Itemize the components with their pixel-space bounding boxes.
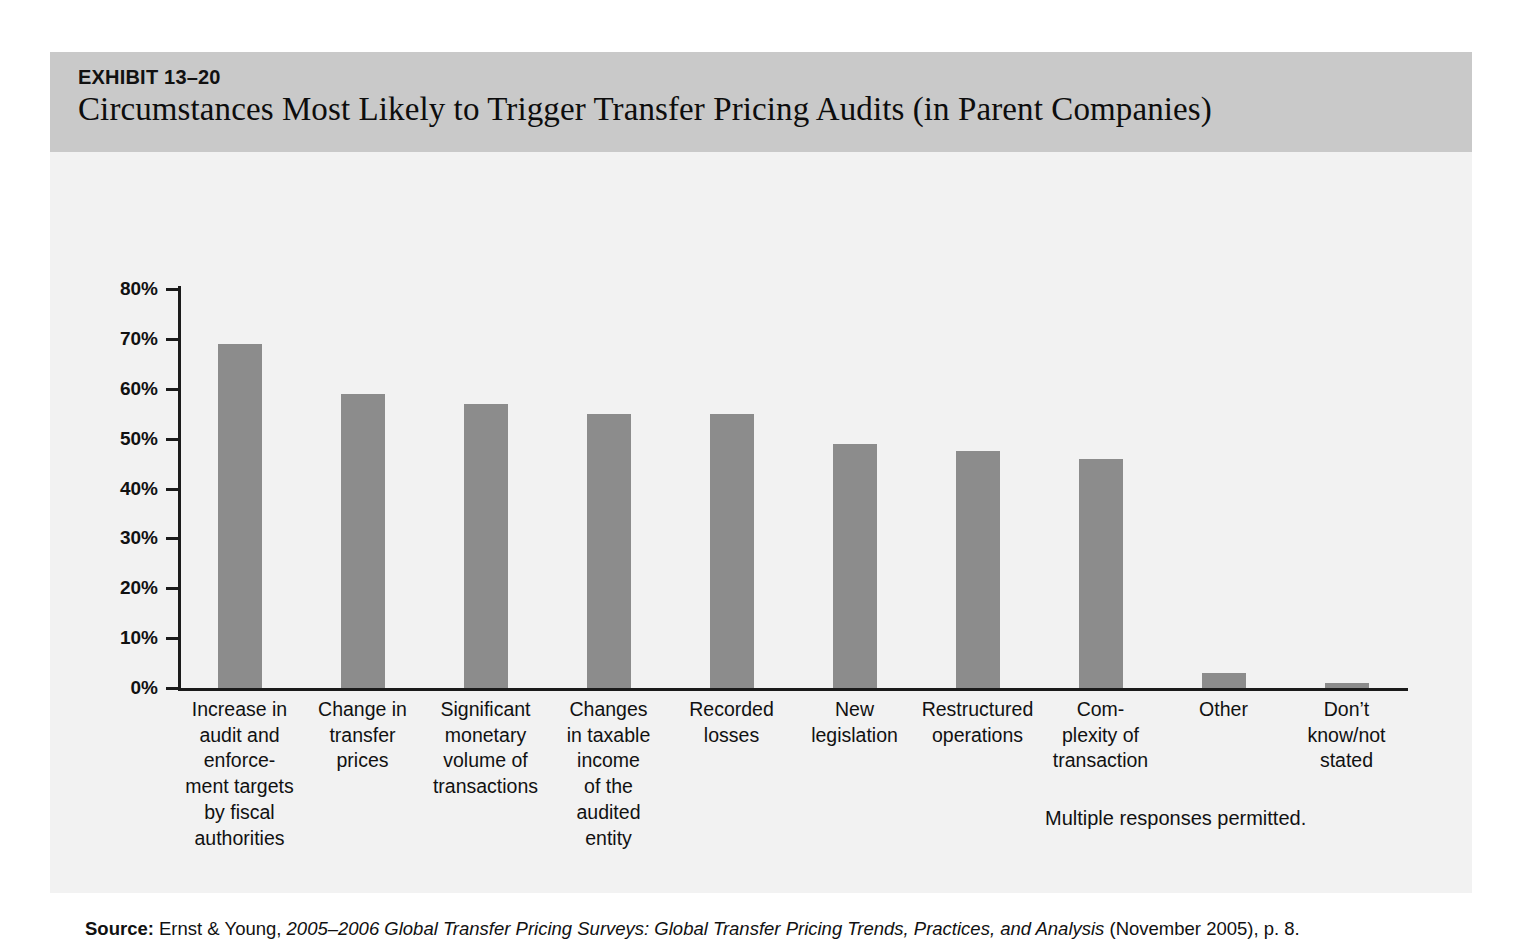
x-axis-label: Other [1158, 697, 1289, 723]
y-axis-tick-label: 30% [98, 527, 158, 549]
x-axis-label: Changes in taxable income of the audited… [543, 697, 674, 851]
source-line: Source: Ernst & Young, 2005–2006 Global … [85, 917, 1452, 939]
bar [1202, 673, 1246, 688]
y-axis-tick-label: 60% [98, 378, 158, 400]
bar [833, 444, 877, 688]
x-axis-label: Change in transfer prices [297, 697, 428, 774]
source-tail: (November 2005), p. 8. [1104, 918, 1299, 939]
bar-series [178, 289, 1408, 688]
multiple-responses-note: Multiple responses permitted. [1045, 807, 1306, 830]
bar [341, 394, 385, 688]
bar [710, 414, 754, 688]
x-axis-label: Increase in audit and enforce- ment targ… [174, 697, 305, 851]
bar [587, 414, 631, 688]
x-axis-label: Don’t know/not stated [1281, 697, 1412, 774]
exhibit-header-band: EXHIBIT 13–20 Circumstances Most Likely … [50, 52, 1472, 152]
exhibit-title: Circumstances Most Likely to Trigger Tra… [78, 91, 1472, 129]
exhibit-number: EXHIBIT 13–20 [78, 66, 1472, 89]
x-axis-label: Com- plexity of transaction [1035, 697, 1166, 774]
y-axis-tick-label: 70% [98, 328, 158, 350]
y-axis-tick-label: 50% [98, 428, 158, 450]
x-axis-label: New legislation [789, 697, 920, 748]
x-axis-label: Restructured operations [912, 697, 1043, 748]
bar [464, 404, 508, 688]
x-axis-labels: Increase in audit and enforce- ment targ… [178, 697, 1428, 877]
source-publisher: Ernst & Young, [154, 918, 287, 939]
y-axis-tick-label: 40% [98, 478, 158, 500]
bar [218, 344, 262, 688]
exhibit-figure: EXHIBIT 13–20 Circumstances Most Likely … [50, 52, 1472, 893]
y-axis-tick-label: 80% [98, 278, 158, 300]
y-axis-tick-label: 0% [98, 677, 158, 699]
x-axis-label: Recorded losses [666, 697, 797, 748]
source-title: 2005–2006 Global Transfer Pricing Survey… [287, 918, 1105, 939]
x-axis-label: Significant monetary volume of transacti… [420, 697, 551, 800]
y-axis-tick-label: 20% [98, 577, 158, 599]
source-label: Source: [85, 918, 154, 939]
bar [1325, 683, 1369, 688]
bar [956, 451, 1000, 688]
bar [1079, 459, 1123, 688]
chart-plot-area: 80%70%60%50%40%30%20%10%0% Increase in a… [50, 152, 1472, 893]
x-axis-line [178, 688, 1408, 691]
y-axis-tick-label: 10% [98, 627, 158, 649]
